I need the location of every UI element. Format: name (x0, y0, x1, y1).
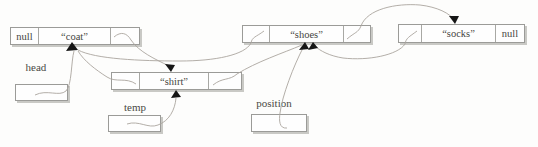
temp-label: temp (119, 101, 151, 113)
node-shirt-value-cell: “shirt” (139, 73, 208, 89)
node-socks-value-cell: “socks” (421, 25, 495, 42)
arrowhead-into-shoes-right (308, 42, 318, 50)
node-socks-prev-cell (399, 25, 421, 42)
linked-list-diagram: null “coat” “shirt” “shoes” “socks” null… (0, 0, 538, 147)
node-socks: “socks” null (398, 24, 525, 43)
arrowhead-into-socks (449, 16, 459, 24)
arrowhead-into-shirt-top (165, 64, 175, 72)
node-shirt: “shirt” (111, 72, 242, 90)
temp-box (108, 115, 161, 132)
node-shoes: “shoes” (242, 25, 371, 43)
arrowhead-into-shoes-left (299, 42, 309, 50)
node-coat: null “coat” (10, 27, 140, 45)
node-shoes-next-cell (343, 26, 370, 42)
node-shirt-next-cell (208, 73, 241, 89)
node-shoes-prev-cell (243, 26, 269, 42)
node-coat-value-cell: “coat” (38, 28, 110, 44)
head-box (15, 84, 68, 101)
node-socks-next-cell: null (495, 25, 524, 42)
node-shirt-prev-cell (112, 73, 139, 89)
node-coat-next-cell (110, 28, 139, 44)
head-label: head (18, 61, 54, 73)
arrowhead-into-shirt-bottom (171, 90, 181, 98)
position-box (251, 114, 307, 132)
node-shoes-value-cell: “shoes” (269, 26, 343, 42)
node-coat-prev-cell: null (11, 28, 38, 44)
position-label: position (253, 97, 295, 109)
